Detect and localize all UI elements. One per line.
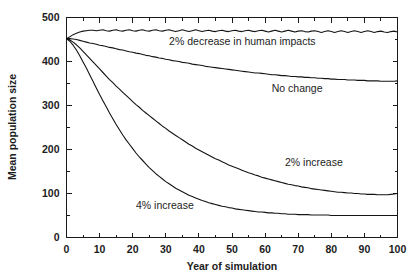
y-axis-tick-labels: 0100200300400500 bbox=[42, 11, 60, 243]
x-tick-label: 60 bbox=[259, 243, 271, 255]
line-chart: 0102030405060708090100 0100200300400500 … bbox=[0, 0, 415, 276]
x-tick-label: 70 bbox=[292, 243, 304, 255]
x-tick-label: 0 bbox=[64, 243, 70, 255]
x-axis-tick-labels: 0102030405060708090100 bbox=[64, 243, 407, 255]
series-annotations: 2% decrease in human impactsNo change2% … bbox=[136, 35, 343, 211]
y-tick-label: 300 bbox=[42, 99, 60, 111]
y-axis-title: Mean population size bbox=[6, 74, 18, 180]
x-tick-label: 100 bbox=[389, 243, 407, 255]
x-tick-label: 90 bbox=[359, 243, 371, 255]
y-tick-label: 500 bbox=[42, 11, 60, 23]
y-axis-minor-ticks bbox=[67, 40, 398, 216]
data-series-group bbox=[67, 30, 398, 216]
x-axis-title: Year of simulation bbox=[187, 260, 277, 272]
x-axis-major-ticks bbox=[67, 18, 398, 238]
y-tick-label: 200 bbox=[42, 143, 60, 155]
y-tick-label: 100 bbox=[42, 187, 60, 199]
series-annotation-label: 4% increase bbox=[136, 199, 194, 211]
series-annotation-label: 2% decrease in human impacts bbox=[169, 35, 315, 47]
x-tick-label: 80 bbox=[325, 243, 337, 255]
y-tick-label: 0 bbox=[54, 231, 60, 243]
x-tick-label: 10 bbox=[94, 243, 106, 255]
plot-frame bbox=[67, 18, 398, 238]
series-line bbox=[67, 39, 398, 216]
series-line bbox=[67, 39, 398, 195]
y-axis-major-ticks bbox=[67, 18, 398, 238]
x-tick-label: 40 bbox=[193, 243, 205, 255]
series-annotation-label: 2% increase bbox=[285, 156, 343, 168]
x-tick-label: 30 bbox=[160, 243, 172, 255]
x-tick-label: 20 bbox=[127, 243, 139, 255]
x-tick-label: 50 bbox=[226, 243, 238, 255]
x-axis-minor-ticks bbox=[83, 18, 381, 238]
series-annotation-label: No change bbox=[272, 82, 323, 94]
y-tick-label: 400 bbox=[42, 55, 60, 67]
figure-container: 0102030405060708090100 0100200300400500 … bbox=[0, 0, 415, 276]
